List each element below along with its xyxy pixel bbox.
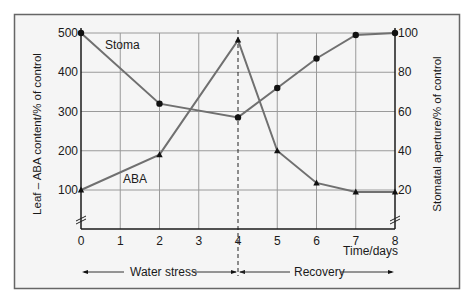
circle-marker-icon [353, 32, 359, 38]
x-tick-label: 3 [195, 234, 202, 248]
circle-marker-icon [274, 85, 280, 91]
y-tick-label: 200 [58, 144, 78, 158]
x-tick-label: 5 [274, 234, 281, 248]
y2-axis-title: Stomatal aperture/% of control [431, 56, 443, 211]
circle-marker-icon [78, 30, 84, 36]
circle-marker-icon [156, 100, 162, 106]
x-axis-title: Time/days [343, 244, 398, 258]
chart: 01234567810020030040050020406080100 Stom… [0, 0, 470, 305]
y-tick-label: 100 [58, 183, 78, 197]
y-tick-label: 500 [58, 26, 78, 40]
y2-tick-label: 40 [398, 144, 412, 158]
y2-tick-label: 80 [398, 65, 412, 79]
y2-tick-label: 60 [398, 105, 412, 119]
circle-marker-icon [392, 30, 398, 36]
y-axis-title: Leaf – ABA content/% of control [31, 53, 43, 215]
y-tick-label: 300 [58, 105, 78, 119]
recovery-label: Recovery [294, 265, 345, 279]
x-tick-label: 6 [313, 234, 320, 248]
y2-tick-label: 100 [398, 26, 418, 40]
x-tick-label: 2 [156, 234, 163, 248]
x-tick-label: 1 [117, 234, 124, 248]
x-tick-label: 4 [235, 234, 242, 248]
y-tick-label: 400 [58, 65, 78, 79]
circle-marker-icon [313, 55, 319, 61]
aba-series-label: ABA [123, 172, 147, 186]
x-tick-label: 0 [78, 234, 85, 248]
water-stress-label: Water stress [130, 265, 197, 279]
y2-tick-label: 20 [398, 183, 412, 197]
circle-marker-icon [235, 114, 241, 120]
stoma-series-label: Stoma [105, 38, 140, 52]
